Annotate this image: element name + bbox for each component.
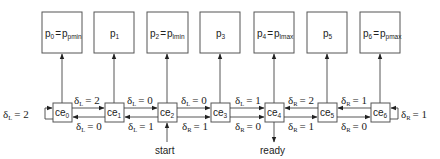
svg-text:δL= 0: δL= 0 [127,94,153,107]
start-label: start [155,145,175,156]
ce-box-2: ce2 [158,103,177,122]
svg-text:δR= 1: δR= 1 [288,120,314,133]
left-self-loop [45,108,53,119]
ce-box-6: ce6 [371,103,390,122]
pe-box-2: p2=plmin [147,12,188,53]
svg-text:δL= 1: δL= 1 [235,94,261,107]
svg-text:δR= 1: δR= 1 [341,94,367,107]
pe-box-0: p0=ppmin [42,12,82,53]
svg-text:δR= 0: δR= 0 [235,120,261,133]
ce-box-3: ce3 [211,103,230,122]
ce-box-1: ce1 [105,103,124,122]
svg-text:δL= 2: δL= 2 [74,94,100,107]
svg-text:δR= 1: δR= 1 [182,120,208,133]
vertical-arrows [62,54,380,103]
ce-box-0: ce0 [53,103,72,122]
pe-box-5: p5 [307,12,347,53]
svg-text:δL= 1: δL= 1 [128,120,154,133]
svg-text:δR= 2: δR= 2 [288,94,314,107]
right-loop-label: δR= 1 [401,108,427,121]
right-self-loop [390,108,398,119]
svg-text:δR= 0: δR= 0 [341,120,367,133]
pe-box-4: p4=plmax [254,12,294,53]
pe-box-1: p1 [94,12,134,53]
svg-text:δL= 0: δL= 0 [181,94,207,107]
pe-box-3: p3 [200,12,240,53]
ce-box-5: ce5 [318,103,337,122]
pe-box-6: p6=ppmax [360,12,402,53]
systolic-diagram: p0=ppmin p1 p2=plmin p3 p4=plmax p5 p6=p… [0,0,440,159]
ce-boxes: ce0 ce1 ce2 ce3 ce4 ce5 ce6 [53,103,390,122]
svg-text:δL= 0: δL= 0 [76,120,102,133]
ready-label: ready [260,145,285,156]
left-loop-label: δL= 2 [3,108,29,121]
ce-box-4: ce4 [265,103,284,122]
